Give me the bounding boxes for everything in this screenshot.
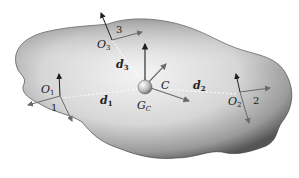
label-d1: d1 (100, 95, 113, 106)
label-o3-number: 3 (116, 25, 122, 35)
label-o1: O1 (41, 84, 55, 95)
label-o3: O3 (97, 39, 111, 50)
label-gc: GC (137, 100, 151, 111)
rigid-body-diagram: O3 3 O1 1 O2 2 d3 d1 d2 C GC (0, 0, 299, 178)
label-d3: d3 (116, 59, 129, 70)
label-o2: O2 (228, 96, 242, 107)
label-o2-number: 2 (253, 96, 259, 106)
label-c: C (161, 80, 169, 91)
label-d2: d2 (193, 80, 206, 91)
center-of-gravity-ball-icon (138, 80, 152, 94)
label-o1-number: 1 (51, 103, 57, 113)
